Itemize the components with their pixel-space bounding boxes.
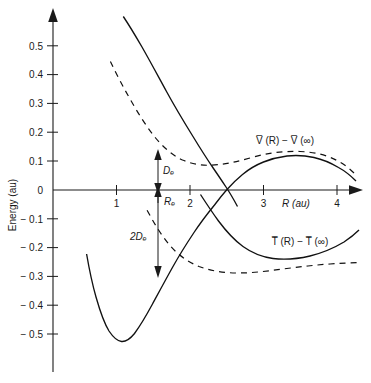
annotation-de: Dₑ xyxy=(154,149,174,194)
x-tick-label: 4 xyxy=(334,198,340,209)
x-axis-title: R (au) xyxy=(282,198,310,209)
x-tick-label: 3 xyxy=(261,198,267,209)
curve-label-v-bar: V̅ (R) − V̅ (∞) xyxy=(256,135,314,146)
y-tick-label: 0 xyxy=(37,185,43,196)
annotation-2de-label: 2Dₑ xyxy=(129,231,147,242)
y-axis-title: Energy (au) xyxy=(7,179,18,231)
x-axis-arrowhead xyxy=(349,185,363,195)
y-tick-label: − 0.2 xyxy=(20,242,43,253)
x-axis xyxy=(53,185,363,195)
annotation-re: Rₑ xyxy=(154,186,175,207)
annotation-de-label: Dₑ xyxy=(163,165,174,176)
y-tick-label: − 0.1 xyxy=(20,214,43,225)
curve-label-t-bar: T̅ (R) − T̅ (∞) xyxy=(272,236,329,247)
de-arrowhead-up xyxy=(154,149,161,160)
y-tick-label: − 0.5 xyxy=(20,329,43,340)
curve-upper-repulsive-solid xyxy=(123,17,237,207)
y-tick-label: 0.3 xyxy=(29,98,43,109)
annotation-re-label: Rₑ xyxy=(164,196,175,207)
y-tick-label: − 0.3 xyxy=(20,271,43,282)
figure-container: 0.5 0.4 0.3 0.2 0.1 0 − 0.1 − 0.2 − 0.3 … xyxy=(0,0,371,383)
y-tick-label: 0.4 xyxy=(29,69,43,80)
curve-rising-branch-solid xyxy=(227,156,356,190)
y-tick-label: 0.2 xyxy=(29,127,43,138)
two-de-arrowhead-down xyxy=(154,266,161,278)
curve-v-bar-dashed xyxy=(110,62,355,174)
y-axis-arrowhead xyxy=(48,8,58,22)
y-tick-label: − 0.4 xyxy=(20,300,43,311)
x-tick-label: 1 xyxy=(114,198,120,209)
y-tick-label: 0.1 xyxy=(29,156,43,167)
y-tick-labels: 0.5 0.4 0.3 0.2 0.1 0 − 0.1 − 0.2 − 0.3 … xyxy=(20,41,43,340)
potential-energy-chart: 0.5 0.4 0.3 0.2 0.1 0 − 0.1 − 0.2 − 0.3 … xyxy=(0,0,371,383)
annotation-2de: 2Dₑ xyxy=(129,194,162,278)
y-tick-label: 0.5 xyxy=(29,41,43,52)
curve-t-bar-deep-well-solid xyxy=(87,190,227,342)
x-tick-label: 2 xyxy=(187,198,193,209)
